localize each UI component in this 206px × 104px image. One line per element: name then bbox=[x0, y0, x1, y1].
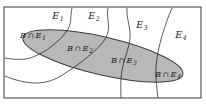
partition-diagram-canvas: E1E2E3E4 B∩E1B∩E2B∩E3B∩E4 bbox=[0, 0, 206, 104]
partition-diagram: E1E2E3E4 B∩E1B∩E2B∩E3B∩E4 bbox=[0, 0, 206, 104]
